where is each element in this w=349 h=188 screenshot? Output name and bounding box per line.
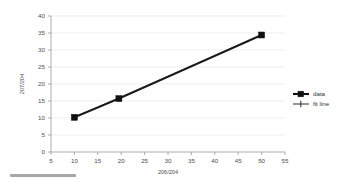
x-tick-label: 40 bbox=[211, 157, 218, 164]
y-tick-label: 30 bbox=[38, 46, 45, 53]
y-tick-label: 35 bbox=[38, 29, 45, 36]
chart-canvas: 40 35 30 25 20 15 10 5 0 5 bbox=[0, 0, 349, 188]
horizontal-scrollbar[interactable] bbox=[10, 174, 76, 177]
x-tick-label: 20 bbox=[118, 157, 125, 164]
y-tick-label: 10 bbox=[38, 114, 45, 121]
y-tick-label: 40 bbox=[38, 12, 45, 19]
y-tick-label: 25 bbox=[38, 63, 45, 70]
y-axis-title: 207/204 bbox=[19, 74, 25, 94]
y-tick-label: 5 bbox=[42, 131, 46, 138]
y-tick-label: 0 bbox=[42, 148, 46, 155]
x-tick-label: 15 bbox=[94, 157, 101, 164]
x-tick-label: 55 bbox=[282, 157, 289, 164]
x-tick-label: 50 bbox=[258, 157, 265, 164]
x-tick-label: 5 bbox=[49, 157, 53, 164]
x-tick-label: 45 bbox=[235, 157, 242, 164]
data-point-marker bbox=[116, 96, 122, 102]
data-point-marker bbox=[259, 32, 265, 38]
x-tick-label: 30 bbox=[165, 157, 172, 164]
chart-container: 40 35 30 25 20 15 10 5 0 5 bbox=[0, 0, 349, 188]
x-axis-title: 206/204 bbox=[158, 169, 178, 175]
legend-square-marker-icon bbox=[298, 91, 304, 97]
x-tick-label: 35 bbox=[188, 157, 195, 164]
y-tick-label: 15 bbox=[38, 97, 45, 104]
x-tick-label: 25 bbox=[141, 157, 148, 164]
y-tick-label: 20 bbox=[38, 80, 45, 87]
legend-label: data bbox=[313, 90, 326, 97]
data-point-marker bbox=[71, 114, 77, 120]
legend-label: fit line bbox=[313, 100, 330, 107]
x-tick-label: 10 bbox=[71, 157, 78, 164]
